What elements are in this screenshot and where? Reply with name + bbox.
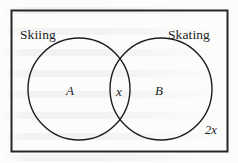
- intersection-region-label: x: [116, 85, 122, 98]
- set-a-circle: [28, 38, 130, 140]
- set-a-heading-label: Skiing: [20, 28, 56, 42]
- set-b-heading-label: Skating: [168, 28, 210, 42]
- complement-region-label: 2x: [205, 124, 217, 137]
- diagram-canvas: [0, 0, 238, 163]
- set-b-region-label: B: [155, 84, 163, 97]
- set-a-region-label: A: [66, 84, 74, 97]
- venn-diagram-figure: Skiing Skating A x B 2x: [0, 0, 238, 163]
